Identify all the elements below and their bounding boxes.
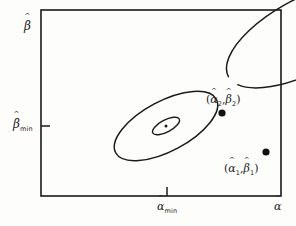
- contour-figure: ^β ^βmin ^αmin ^α (^α2,^β2) (^α1,^β1): [0, 0, 296, 226]
- alpha-hat-symbol: ^α: [210, 94, 217, 105]
- subscript-1: 1: [250, 169, 254, 177]
- paren-close: ): [254, 162, 258, 175]
- subscript-2: 2: [218, 100, 222, 108]
- y-axis-label: ^β: [24, 20, 31, 32]
- paren-close: ): [236, 93, 240, 106]
- alpha-hat-symbol: ^α: [274, 201, 281, 212]
- hat-accent-icon: ^: [226, 88, 232, 95]
- point-alpha2-beta2-marker[interactable]: [218, 109, 225, 116]
- subscript-2: 2: [232, 100, 236, 108]
- hat-accent-icon: ^: [211, 88, 217, 95]
- minimum-marker: [165, 125, 168, 128]
- alpha-hat-symbol: ^α: [228, 163, 235, 174]
- x-axis-tick-label-min: ^αmin: [157, 201, 177, 212]
- beta-hat-symbol: ^β: [244, 163, 250, 174]
- beta-hat-symbol: ^β: [13, 118, 20, 130]
- hat-accent-icon: ^: [158, 195, 164, 202]
- x-axis-label: ^α: [274, 201, 281, 212]
- hat-accent-icon: ^: [244, 157, 250, 164]
- subscript-min: min: [164, 207, 177, 215]
- y-axis-tick-label-min: ^βmin: [13, 118, 33, 130]
- hat-accent-icon: ^: [14, 111, 20, 118]
- beta-hat-symbol: ^β: [226, 94, 232, 105]
- subscript-min: min: [20, 125, 33, 133]
- hat-accent-icon: ^: [25, 13, 31, 20]
- point-alpha1-beta1-marker[interactable]: [262, 148, 269, 155]
- hat-accent-icon: ^: [229, 157, 235, 164]
- point-alpha1-beta1-label: (^α1,^β1): [224, 163, 259, 174]
- subscript-1: 1: [236, 169, 240, 177]
- plot-canvas: [0, 0, 296, 226]
- beta-hat-symbol: ^β: [24, 20, 31, 32]
- point-alpha2-beta2-label: (^α2,^β2): [206, 94, 241, 105]
- hat-accent-icon: ^: [275, 195, 281, 202]
